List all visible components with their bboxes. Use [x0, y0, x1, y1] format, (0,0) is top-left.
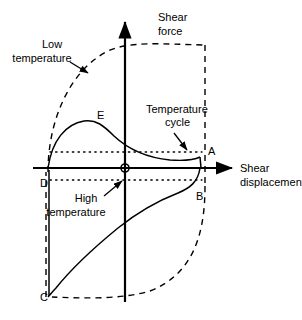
- shear-force-displacement-diagram: Shear force Shear displacement Low tempe…: [0, 0, 302, 320]
- x-axis-label-line2: displacement: [240, 176, 302, 188]
- temperature-cycle-label-line1: Temperature: [146, 103, 208, 115]
- high-temperature-label-line2: temperature: [46, 206, 105, 218]
- point-d-label: D: [40, 177, 48, 189]
- y-axis-label-line1: Shear: [158, 11, 188, 23]
- high-temperature-leader: [104, 181, 122, 196]
- temperature-cycle-leader: [174, 133, 187, 150]
- high-temperature-label-line1: High: [75, 192, 98, 204]
- x-axis-label-line1: Shear: [240, 162, 270, 174]
- y-axis-label-line2: force: [158, 25, 182, 37]
- high-temperature-drop-at-a: [200, 157, 201, 168]
- low-temperature-label-line1: Low: [42, 38, 62, 50]
- point-c-label: C: [40, 291, 48, 303]
- point-e-label: E: [97, 109, 104, 121]
- temperature-cycle-label-line2: cycle: [165, 116, 190, 128]
- point-b-label: B: [196, 190, 203, 202]
- low-temperature-label-line2: temperature: [12, 52, 71, 64]
- diagram-canvas: Shear force Shear displacement Low tempe…: [0, 0, 302, 320]
- point-a-label: A: [208, 145, 216, 157]
